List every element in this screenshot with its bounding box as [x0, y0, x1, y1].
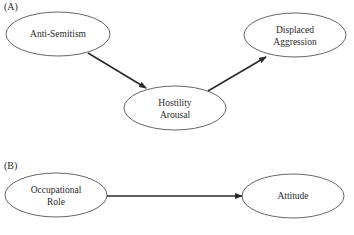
label-line: Arousal	[158, 109, 191, 121]
label-line: Occupational	[31, 184, 82, 196]
label-line: Role	[31, 196, 82, 208]
label-line: Hostility	[158, 97, 191, 109]
label-hostility-arousal: Hostility Arousal	[158, 97, 191, 121]
label-line: Attitude	[277, 190, 308, 202]
label-attitude: Attitude	[277, 190, 308, 202]
edge-antisemitism-to-hostility	[88, 53, 146, 88]
label-occupational-role: Occupational Role	[31, 184, 82, 208]
panel-label-b: (B)	[4, 161, 17, 171]
label-line: Anti-Semitism	[30, 28, 86, 40]
label-anti-semitism: Anti-Semitism	[30, 28, 86, 40]
label-displaced-aggression: Displaced Aggression	[273, 24, 316, 48]
edge-hostility-to-displaced	[208, 57, 266, 91]
label-line: Aggression	[273, 36, 316, 48]
panel-label-a: (A)	[4, 2, 18, 12]
label-line: Displaced	[273, 24, 316, 36]
